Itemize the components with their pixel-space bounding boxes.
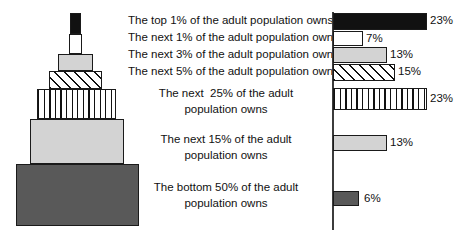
bar-next-3-percent [333,47,387,63]
bar-next-15-percent [333,135,387,151]
bar-value-next-1-percent: 7% [366,32,383,45]
bar-next-25-percent [333,88,427,110]
label-next-15-percent-line1: The next 15% of the adult [128,133,324,146]
pyramid-layer-bottom-50-percent [16,164,139,226]
label-top-1-percent: The top 1% of the adult population owns [128,14,324,27]
pyramid-layer-top-1-percent [70,13,81,34]
bar-value-next-15-percent: 13% [390,136,413,149]
label-next-15-percent-line2: population owns [128,149,324,162]
pyramid-layer-next-25-percent [37,89,116,119]
label-bottom-50-percent-line2: population owns [128,197,324,210]
bar-bottom-50-percent [333,191,359,206]
bar-next-5-percent [333,64,395,81]
bar-value-bottom-50-percent: 6% [364,192,381,205]
bar-value-next-5-percent: 15% [398,65,421,78]
figure-canvas: The top 1% of the adult population owns … [0,0,474,240]
label-next-1-percent: The next 1% of the adult population owns [128,31,324,44]
label-next-25-percent-line2: population owns [128,103,324,116]
bar-value-next-3-percent: 13% [390,48,413,61]
pyramid-layer-next-15-percent [30,119,124,164]
label-next-25-percent-line1: The next 25% of the adult [128,87,324,100]
pyramid-layer-next-5-percent [49,71,102,89]
label-next-3-percent: The next 3% of the adult population owns [128,48,324,61]
bar-top-1-percent [333,13,427,30]
pyramid-layer-next-1-percent [69,34,82,54]
bar-next-1-percent [333,31,363,46]
pyramid-layer-next-3-percent [58,54,93,71]
label-bottom-50-percent-line1: The bottom 50% of the adult [128,181,324,194]
bar-value-top-1-percent: 23% [430,14,453,27]
bar-value-next-25-percent: 23% [430,92,453,105]
label-next-5-percent: The next 5% of the adult population owns [128,65,324,78]
